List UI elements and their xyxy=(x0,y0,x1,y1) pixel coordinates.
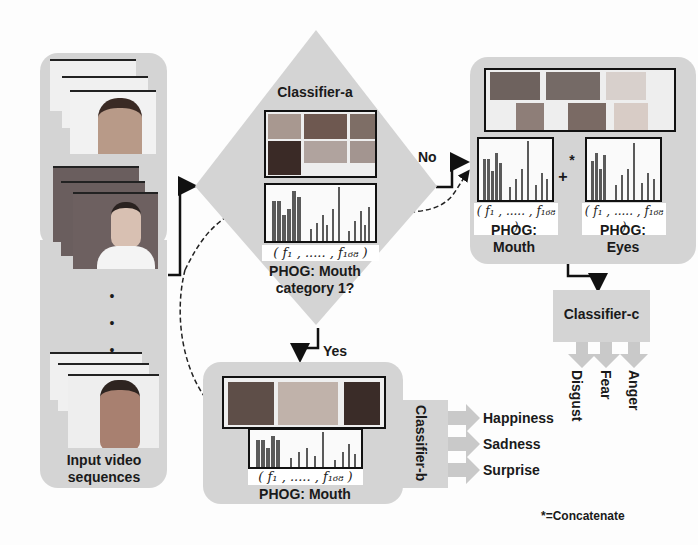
classifier-b-output-arrows xyxy=(0,0,698,545)
output-sadness: Sadness xyxy=(483,436,541,453)
output-happiness: Happiness xyxy=(483,410,554,427)
output-surprise: Surprise xyxy=(483,462,540,479)
concatenate-legend: *=Concatenate xyxy=(541,509,625,523)
